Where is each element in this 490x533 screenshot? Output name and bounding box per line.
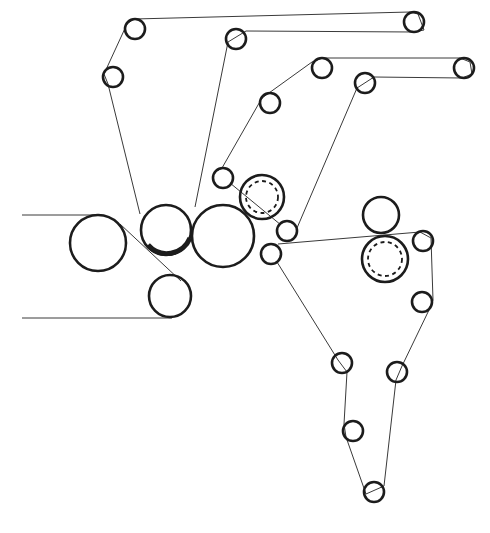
large-left-roll bbox=[70, 215, 126, 271]
guide-roll-9 bbox=[213, 168, 233, 188]
guide-roll-16 bbox=[343, 421, 363, 441]
lower-press-roll bbox=[149, 275, 191, 317]
guide-roll-15 bbox=[387, 362, 407, 382]
guide-roll-10 bbox=[277, 221, 297, 241]
top-felt-loop bbox=[104, 12, 424, 214]
guide-roll-14 bbox=[332, 353, 352, 373]
guide-roll-5 bbox=[312, 58, 332, 78]
guide-roll-2 bbox=[103, 67, 123, 87]
guide-roll-11 bbox=[261, 244, 281, 264]
upper-nip-roll bbox=[363, 197, 399, 233]
dashed-roll-lower bbox=[362, 236, 408, 282]
guide-roll-13 bbox=[412, 292, 432, 312]
guide-roll-7 bbox=[260, 93, 280, 113]
middle-felt-run bbox=[277, 232, 433, 494]
center-roll-wrap-band bbox=[148, 238, 190, 254]
guide-rolls bbox=[103, 12, 474, 502]
press-section-diagram bbox=[0, 0, 490, 533]
guide-roll-1 bbox=[125, 19, 145, 39]
guide-roll-3 bbox=[226, 29, 246, 49]
large-right-roll bbox=[192, 205, 254, 267]
guide-roll-17 bbox=[364, 482, 384, 502]
